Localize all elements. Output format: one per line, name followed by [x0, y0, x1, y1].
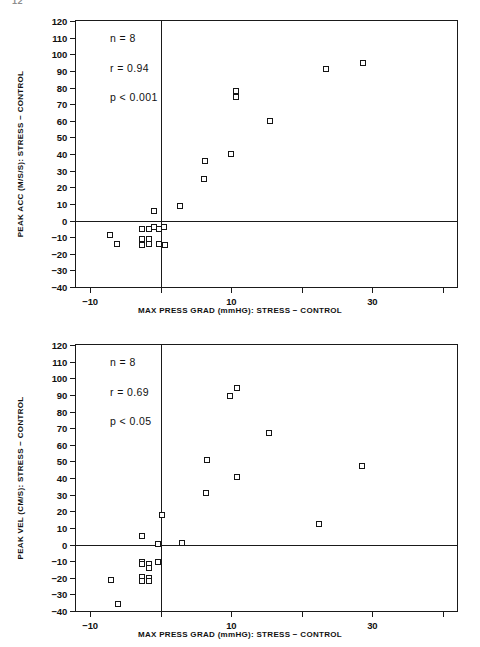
y-tick-label-bottom: −10 [51, 556, 67, 567]
data-point [323, 66, 329, 72]
zero-line-horizontal-top [76, 221, 457, 222]
y-tick-top [70, 287, 76, 288]
y-tick-bottom [70, 545, 76, 546]
y-tick-top [70, 71, 76, 72]
y-tick-top [70, 171, 76, 172]
stats-annotation-bottom: n = 8 r = 0.69 p < 0.05 [110, 357, 151, 446]
x-tick-top [161, 287, 162, 293]
x-tick-bottom [231, 611, 232, 617]
data-point [139, 578, 145, 584]
y-tick-label-top: −10 [51, 232, 67, 243]
y-tick-label-top: 50 [57, 132, 67, 143]
data-point [139, 533, 145, 539]
x-tick-top [372, 287, 373, 293]
x-tick-top [90, 287, 91, 293]
y-tick-label-bottom: −40 [51, 606, 67, 617]
y-tick-bottom [70, 528, 76, 529]
y-tick-label-bottom: 120 [52, 340, 67, 351]
data-point [228, 151, 234, 157]
y-tick-label-bottom: 40 [57, 473, 67, 484]
data-point [316, 521, 322, 527]
data-point [234, 385, 240, 391]
zero-line-vertical-bottom [161, 345, 162, 611]
y-tick-label-bottom: 110 [52, 356, 67, 367]
data-point [107, 232, 113, 238]
y-tick-top [70, 237, 76, 238]
stat-p-top: p < 0.001 [110, 92, 158, 103]
y-tick-label-top: 0 [62, 215, 67, 226]
y-tick-bottom [70, 495, 76, 496]
y-tick-top [70, 187, 76, 188]
y-tick-bottom [70, 561, 76, 562]
y-tick-top [70, 270, 76, 271]
y-axis-title-bottom: PEAK VEL (CM/S): STRESS − CONTROL [16, 397, 25, 560]
data-point [203, 490, 209, 496]
y-tick-label-top: 20 [57, 182, 67, 193]
y-tick-label-top: 90 [57, 65, 67, 76]
y-tick-label-top: −30 [51, 265, 67, 276]
y-tick-top [70, 204, 76, 205]
y-tick-label-top: 30 [57, 165, 67, 176]
y-tick-label-top: 70 [57, 99, 67, 110]
y-tick-label-bottom: 0 [62, 539, 67, 550]
y-tick-bottom [70, 611, 76, 612]
y-tick-label-bottom: −20 [51, 572, 67, 583]
y-tick-label-top: 10 [57, 198, 67, 209]
x-tick-bottom [372, 611, 373, 617]
y-axis-title-top: PEAK ACC (M/S/S): STRESS − CONTROL [16, 71, 25, 238]
y-tick-top [70, 221, 76, 222]
y-tick-top [70, 254, 76, 255]
data-point [233, 94, 239, 100]
y-tick-top [70, 21, 76, 22]
stat-n-bottom: n = 8 [110, 357, 151, 368]
y-tick-bottom [70, 478, 76, 479]
y-tick-bottom [70, 345, 76, 346]
y-tick-bottom [70, 395, 76, 396]
data-point [266, 430, 272, 436]
data-point [234, 474, 240, 480]
y-tick-label-bottom: 20 [57, 506, 67, 517]
y-tick-top [70, 154, 76, 155]
data-point [159, 512, 165, 518]
data-point [139, 242, 145, 248]
data-point [162, 242, 168, 248]
y-tick-label-top: 80 [57, 82, 67, 93]
y-tick-top [70, 88, 76, 89]
y-tick-bottom [70, 362, 76, 363]
y-tick-top [70, 54, 76, 55]
y-tick-label-bottom: 50 [57, 456, 67, 467]
stat-p-bottom: p < 0.05 [110, 416, 151, 427]
plot-area-peak-acc: n = 8 r = 0.94 p < 0.001 −40−30−20−10010… [75, 20, 458, 288]
y-tick-label-top: 100 [52, 49, 67, 60]
y-tick-label-top: 110 [52, 32, 67, 43]
y-tick-label-top: 40 [57, 149, 67, 160]
data-point [115, 601, 121, 607]
x-axis-title-top: MAX PRESS GRAD (mmHG): STRESS − CONTROL [0, 306, 480, 315]
data-point [233, 88, 239, 94]
y-tick-label-bottom: 100 [52, 373, 67, 384]
stat-n-top: n = 8 [110, 33, 158, 44]
data-point [155, 559, 161, 565]
x-tick-bottom [90, 611, 91, 617]
data-point [114, 241, 120, 247]
y-tick-bottom [70, 594, 76, 595]
stat-r-top: r = 0.94 [110, 63, 158, 74]
plot-area-peak-vel: n = 8 r = 0.69 p < 0.05 −40−30−20−100102… [75, 344, 458, 612]
data-point [161, 224, 167, 230]
data-point [201, 176, 207, 182]
y-tick-top [70, 38, 76, 39]
stat-r-bottom: r = 0.69 [110, 387, 151, 398]
data-point [359, 463, 365, 469]
y-tick-top [70, 137, 76, 138]
data-point [179, 540, 185, 546]
stats-annotation-top: n = 8 r = 0.94 p < 0.001 [110, 33, 158, 122]
data-point [360, 60, 366, 66]
y-tick-label-top: −40 [51, 282, 67, 293]
y-tick-bottom [70, 445, 76, 446]
data-point [151, 208, 157, 214]
y-tick-label-top: 120 [52, 16, 67, 27]
x-tick-top [231, 287, 232, 293]
x-tick-bottom [443, 611, 444, 617]
x-tick-top [302, 287, 303, 293]
y-tick-bottom [70, 578, 76, 579]
